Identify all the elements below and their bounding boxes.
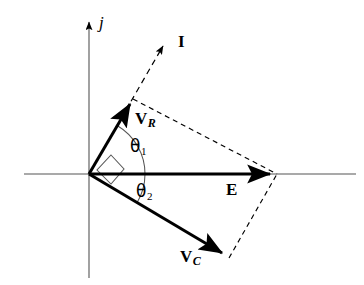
vector-label-E: E	[226, 181, 237, 198]
angle-label-theta1: θ1	[130, 138, 146, 157]
vectors-group	[89, 46, 270, 253]
angle-label-theta1-symbol: θ	[130, 136, 140, 156]
vector-VC	[89, 174, 222, 253]
angle-label-theta2-subscript: 2	[147, 190, 153, 202]
vector-VR	[89, 104, 130, 174]
imaginary-axis-label: j	[99, 14, 104, 31]
phasor-diagram-figure: j I VR E VC θ1 θ2	[0, 0, 364, 285]
vector-label-I: I	[178, 33, 185, 50]
vector-label-VR-subscript: R	[148, 116, 156, 130]
axis-group	[24, 22, 356, 278]
vector-label-E-text: E	[226, 180, 237, 199]
vector-label-I-text: I	[178, 32, 185, 51]
vector-label-VC-subscript: C	[193, 254, 201, 268]
vector-label-VR: VR	[135, 110, 156, 129]
angle-label-theta2-symbol: θ	[136, 181, 146, 201]
vector-label-VC: VC	[180, 248, 201, 267]
vector-label-VR-text: V	[135, 109, 147, 128]
vector-label-VC-text: V	[180, 247, 192, 266]
angle-label-theta1-subscript: 1	[141, 145, 147, 157]
angle-label-theta2: θ2	[136, 183, 152, 202]
